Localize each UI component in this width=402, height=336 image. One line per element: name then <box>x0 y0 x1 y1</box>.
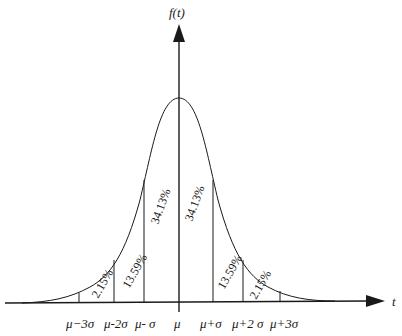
tick-mu-plus-2sigma: μ+2 σ <box>231 316 264 331</box>
region-left-middle-label: 13.59% <box>119 251 150 290</box>
tick-mu-minus-3sigma: μ−3σ <box>65 316 95 331</box>
region-right-inner-label: 34.13% <box>182 183 208 223</box>
x-axis-label: t <box>392 294 396 309</box>
region-right-middle-label: 13.59% <box>214 252 245 291</box>
tick-mu: μ <box>173 316 181 331</box>
tick-mu-minus-sigma: μ- σ <box>134 316 156 331</box>
tick-mu-plus-sigma: μ+σ <box>199 316 222 331</box>
x-axis-arrow-icon <box>366 295 385 307</box>
y-axis-arrow-icon <box>173 24 185 42</box>
tick-mu-minus-2sigma: μ-2σ <box>103 316 128 331</box>
y-axis-label: f(t) <box>169 5 185 20</box>
region-left-outer-label: 2.15% <box>88 267 116 301</box>
x-axis <box>5 301 368 303</box>
normal-distribution-diagram: t f(t) 2.15% 13.59% 34.13% 34.13% 13.59%… <box>0 0 402 336</box>
tick-mu-plus-3sigma: μ+3σ <box>269 316 299 331</box>
region-left-inner-label: 34.13% <box>148 186 174 226</box>
